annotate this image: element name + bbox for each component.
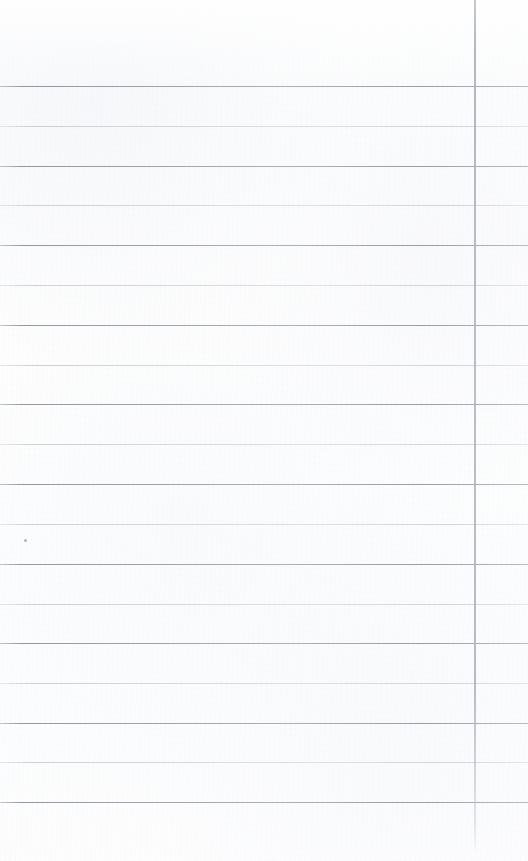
ruled-line-16 xyxy=(0,683,528,684)
ruled-line-5 xyxy=(0,245,528,246)
ruled-line-9 xyxy=(0,404,528,405)
ruled-line-15 xyxy=(0,643,528,644)
scan-top-fade xyxy=(0,0,528,90)
ruled-line-2 xyxy=(0,126,528,127)
ruled-line-13 xyxy=(0,564,528,565)
ruled-line-18 xyxy=(0,762,528,763)
ruled-line-17 xyxy=(0,723,528,724)
ruled-line-12 xyxy=(0,524,528,525)
ruled-line-19 xyxy=(0,802,528,803)
ruled-line-8 xyxy=(0,365,528,366)
ruled-line-11 xyxy=(0,484,528,485)
ruled-line-7 xyxy=(0,325,528,326)
paper-texture-overlay xyxy=(0,0,528,861)
ruled-line-14 xyxy=(0,604,528,605)
right-margin-line xyxy=(474,0,476,851)
ruled-line-4 xyxy=(0,205,528,206)
ruled-line-10 xyxy=(0,444,528,445)
paper-speck xyxy=(24,539,27,542)
ruled-line-6 xyxy=(0,285,528,286)
paper-page xyxy=(0,0,528,861)
ruled-line-1 xyxy=(0,86,528,87)
ruled-line-3 xyxy=(0,166,528,167)
